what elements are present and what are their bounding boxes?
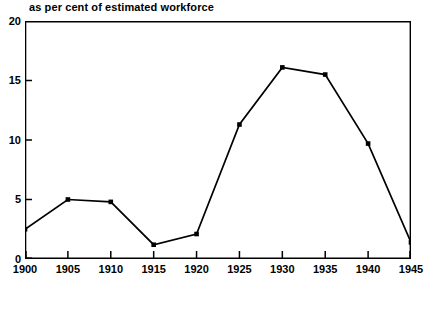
x-tick-label: 1940	[356, 263, 380, 275]
y-tick-label: 20	[9, 16, 21, 27]
data-point-marker	[323, 72, 328, 77]
x-axis-ticks	[26, 251, 410, 258]
y-axis-tick-labels: 05101520	[0, 21, 21, 259]
x-tick-label: 1945	[399, 263, 423, 275]
data-point-markers	[25, 65, 411, 247]
data-point-marker	[237, 122, 242, 127]
data-point-marker	[66, 197, 71, 202]
x-tick-label: 1905	[56, 263, 80, 275]
data-point-marker	[151, 242, 156, 247]
line-chart-svg	[25, 21, 411, 259]
data-point-marker	[280, 65, 285, 70]
x-tick-label: 1910	[99, 263, 123, 275]
data-series-line	[25, 67, 411, 244]
y-tick-label: 5	[15, 194, 21, 205]
y-axis-ticks	[26, 21, 33, 258]
axis-frame	[25, 21, 411, 259]
chart-figure: as per cent of estimated workforce 05101…	[0, 0, 429, 310]
data-point-marker	[194, 232, 199, 237]
y-tick-label: 15	[9, 75, 21, 86]
x-tick-label: 1900	[13, 263, 37, 275]
data-point-marker	[366, 141, 371, 146]
chart-title: as per cent of estimated workforce	[29, 0, 214, 14]
x-tick-label: 1935	[313, 263, 337, 275]
x-tick-label: 1915	[141, 263, 165, 275]
x-axis-tick-labels: 1900190519101915192019251930193519401945	[25, 263, 411, 279]
data-point-marker	[25, 227, 27, 232]
data-point-marker	[108, 200, 113, 205]
plot-area	[25, 21, 411, 259]
y-tick-label: 10	[9, 135, 21, 146]
data-point-marker	[409, 240, 411, 245]
x-tick-label: 1930	[270, 263, 294, 275]
x-tick-label: 1925	[227, 263, 251, 275]
x-tick-label: 1920	[184, 263, 208, 275]
figure-caption	[0, 289, 429, 298]
